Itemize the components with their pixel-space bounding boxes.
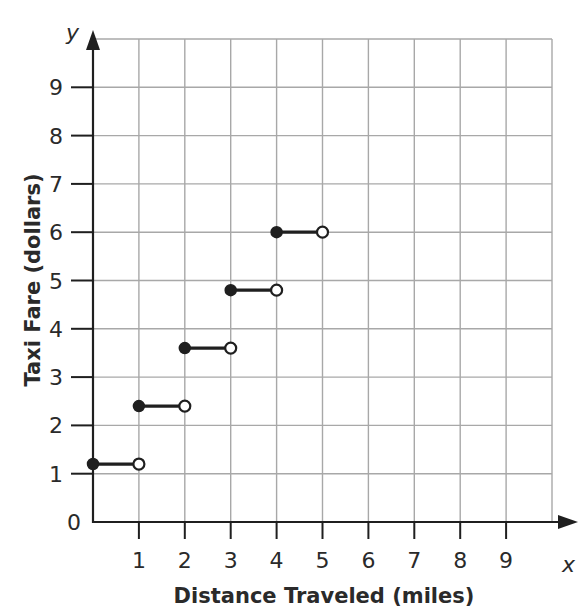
closed-point-icon <box>133 401 144 412</box>
origin-label: 0 <box>67 510 81 535</box>
open-point-icon <box>271 285 282 296</box>
y-tick-label: 6 <box>49 220 63 245</box>
x-axis-arrow-icon <box>558 515 578 529</box>
y-tick-label: 1 <box>49 462 63 487</box>
open-point-icon <box>133 459 144 470</box>
x-tick-label: 1 <box>132 548 146 573</box>
y-axis-arrow-icon <box>86 30 100 50</box>
step-function-chart: y x 0 123456789123456789 Distance Travel… <box>0 0 582 612</box>
ticks: 123456789123456789 <box>49 75 513 573</box>
y-tick-label: 9 <box>49 75 63 100</box>
data-series <box>88 227 329 470</box>
closed-point-icon <box>225 285 236 296</box>
open-point-icon <box>225 343 236 354</box>
y-tick-label: 3 <box>49 365 63 390</box>
x-tick-label: 7 <box>407 548 421 573</box>
y-axis-title: Taxi Fare (dollars) <box>21 173 45 386</box>
open-point-icon <box>179 401 190 412</box>
y-tick-label: 7 <box>49 172 63 197</box>
x-tick-label: 6 <box>361 548 375 573</box>
x-tick-label: 5 <box>316 548 330 573</box>
step-segment <box>88 459 145 470</box>
y-variable-label: y <box>65 20 80 45</box>
x-tick-label: 3 <box>224 548 238 573</box>
y-tick-label: 8 <box>49 124 63 149</box>
y-tick-label: 5 <box>49 269 63 294</box>
closed-point-icon <box>271 227 282 238</box>
x-axis-title: Distance Traveled (miles) <box>174 584 475 608</box>
x-tick-label: 9 <box>499 548 513 573</box>
x-tick-label: 2 <box>178 548 192 573</box>
step-segment <box>179 343 236 354</box>
closed-point-icon <box>88 459 99 470</box>
step-segment <box>271 227 328 238</box>
step-segment <box>133 401 190 412</box>
x-variable-label: x <box>561 552 576 577</box>
step-segment <box>225 285 282 296</box>
y-tick-label: 2 <box>49 413 63 438</box>
x-tick-label: 4 <box>270 548 284 573</box>
x-tick-label: 8 <box>453 548 467 573</box>
y-tick-label: 4 <box>49 317 63 342</box>
open-point-icon <box>317 227 328 238</box>
grid <box>93 39 552 522</box>
closed-point-icon <box>179 343 190 354</box>
axes: y x 0 <box>65 20 578 577</box>
